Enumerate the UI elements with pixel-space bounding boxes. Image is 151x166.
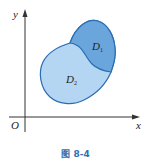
- figure-caption: 图 8-4: [0, 147, 151, 160]
- origin-label: O: [11, 119, 19, 131]
- x-axis-label: x: [135, 119, 141, 131]
- y-axis-label: y: [12, 8, 18, 20]
- y-axis-arrow-icon: [23, 9, 28, 17]
- diagram-canvas: D1 D2 y x O: [0, 0, 151, 166]
